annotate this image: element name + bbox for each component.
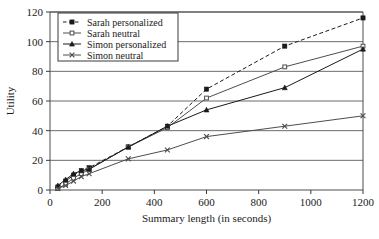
x-tick-label: 600 [198, 196, 215, 208]
x-axis-tick-labels: 020040060080010001200 [47, 196, 374, 208]
y-tick-label: 60 [32, 95, 44, 107]
y-tick-label: 0 [38, 184, 44, 196]
y-tick-label: 40 [32, 125, 44, 137]
y-axis-tick-labels: 020406080100120 [27, 6, 44, 196]
y-axis-ticks [46, 12, 50, 190]
legend-label: Sarah neutral [87, 28, 140, 39]
y-tick-label: 20 [32, 154, 44, 166]
data-point-marker [70, 31, 74, 35]
data-point-marker [87, 171, 92, 176]
x-tick-label: 1000 [300, 196, 323, 208]
chart-canvas: 020406080100120 020040060080010001200 Su… [0, 0, 379, 239]
data-point-marker [282, 85, 287, 90]
x-tick-label: 400 [146, 196, 163, 208]
y-tick-label: 80 [32, 65, 44, 77]
y-tick-label: 120 [27, 6, 44, 18]
series-line [58, 116, 363, 189]
data-point-marker [283, 44, 287, 48]
data-point-marker [205, 96, 209, 100]
series-line [58, 46, 363, 188]
x-tick-label: 0 [47, 196, 53, 208]
series-simon-personalized [55, 46, 365, 187]
legend: Sarah personalizedSarah neutralSimon per… [58, 13, 178, 61]
legend-label: Simon personalized [87, 39, 166, 50]
data-point-marker [361, 16, 365, 20]
y-axis-title: Utility [4, 86, 16, 115]
data-point-marker [204, 87, 208, 91]
series-simon-neutral [55, 113, 365, 190]
data-point-marker [283, 65, 287, 69]
legend-label: Sarah personalized [87, 17, 163, 28]
series-line [58, 49, 363, 185]
x-axis-ticks [50, 190, 363, 194]
data-point-marker [70, 20, 74, 24]
x-tick-label: 800 [250, 196, 267, 208]
legend-label: Simon neutral [87, 50, 144, 61]
y-tick-label: 100 [27, 36, 44, 48]
x-tick-label: 1200 [352, 196, 375, 208]
chart-figure: 020406080100120 020040060080010001200 Su… [0, 0, 379, 239]
x-axis-title: Summary length (in seconds) [142, 212, 272, 225]
x-tick-label: 200 [94, 196, 111, 208]
